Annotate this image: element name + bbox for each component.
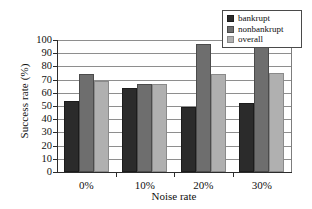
y-tick-label: 90 — [42, 48, 53, 59]
plot-area: 0102030405060708090100 0%10%20%30% — [57, 40, 291, 172]
bar-chart: Success rate (%) 0102030405060708090100 … — [0, 0, 312, 209]
bar-overall-30% — [269, 73, 284, 172]
bar-bankrupt-10% — [122, 88, 137, 172]
y-tick-label: 70 — [42, 74, 53, 85]
y-tick-label: 80 — [42, 61, 53, 72]
y-tick-label: 50 — [42, 101, 53, 112]
plot-right-border — [291, 40, 292, 173]
bar-bankrupt-30% — [239, 103, 254, 172]
y-tick-label: 30 — [42, 127, 53, 138]
legend-swatch-icon — [227, 15, 234, 22]
legend-item-label: overall — [238, 35, 263, 44]
y-tick-label: 40 — [42, 114, 53, 125]
legend-item-label: nonbankrupt — [238, 25, 284, 34]
legend: bankruptnonbankruptoverall — [222, 10, 302, 48]
legend-item-label: bankrupt — [238, 14, 270, 23]
bar-nonbankrupt-0% — [79, 74, 94, 172]
y-tick-label: 0 — [47, 167, 52, 178]
x-axis-line — [57, 172, 292, 173]
y-tick-label: 20 — [42, 140, 53, 151]
legend-item-bankrupt: bankrupt — [227, 14, 298, 24]
bar-overall-0% — [94, 81, 109, 172]
y-axis-line — [57, 40, 58, 173]
y-tick-label: 100 — [36, 35, 52, 46]
legend-swatch-icon — [227, 36, 234, 43]
legend-swatch-icon — [227, 26, 234, 33]
y-axis-title: Success rate (%) — [18, 36, 30, 166]
y-tick-label: 60 — [42, 88, 53, 99]
bar-overall-10% — [152, 84, 167, 172]
x-axis-title: Noise rate — [57, 190, 291, 202]
bar-overall-20% — [211, 74, 226, 172]
bar-bankrupt-20% — [181, 107, 196, 172]
bar-nonbankrupt-30% — [254, 45, 269, 172]
legend-item-nonbankrupt: nonbankrupt — [227, 24, 298, 34]
legend-item-overall: overall — [227, 35, 298, 45]
bar-nonbankrupt-20% — [196, 44, 211, 172]
y-tick-label: 10 — [42, 154, 53, 165]
bar-nonbankrupt-10% — [137, 84, 152, 172]
bar-bankrupt-0% — [64, 101, 79, 172]
